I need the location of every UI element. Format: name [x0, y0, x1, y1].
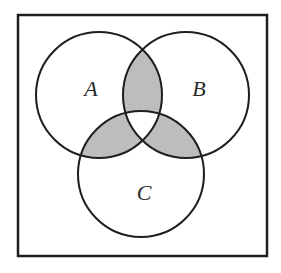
set-a-label: A: [82, 76, 98, 101]
set-c-label: C: [137, 180, 152, 205]
venn-diagram: A B C: [0, 0, 281, 273]
set-b-label: B: [192, 76, 205, 101]
